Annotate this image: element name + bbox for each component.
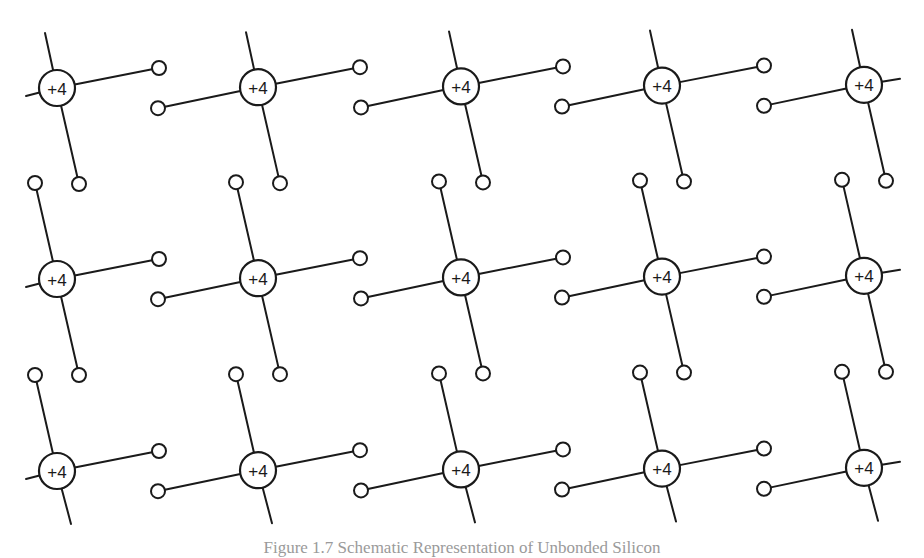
atom-r2c2-left-electron: [151, 292, 165, 306]
atom-r3c2-up-bond: [238, 381, 254, 453]
atom-r1c3-left-bond: [368, 90, 444, 106]
silicon-atom: +4: [240, 69, 276, 105]
atom-r3c5-right-bond: [882, 462, 900, 465]
atom-r2c2-left-bond: [165, 282, 241, 298]
atom-r3c3-right-bond: [479, 451, 556, 466]
atom-charge-label: +4: [451, 461, 470, 480]
atom-r3c2-down-bond: [263, 488, 272, 524]
atom-r2c1-left-bond: [26, 283, 40, 287]
atom-r3c2-left-electron: [151, 484, 165, 498]
atom-r2c3-up-bond: [441, 188, 457, 260]
atom-charge-label: +4: [652, 268, 671, 287]
atom-r3c2-right-bond: [276, 452, 353, 467]
atom-r3c4-right-bond: [680, 450, 757, 465]
silicon-atom: +4: [39, 70, 75, 106]
silicon-atom: +4: [39, 261, 75, 297]
atom-charge-label: +4: [854, 76, 873, 95]
silicon-atom: +4: [644, 451, 680, 487]
atom-r1c3-left-electron: [354, 100, 368, 114]
atom-charge-label: +4: [47, 80, 66, 99]
atom-r1c1-down-electron: [72, 177, 86, 191]
atom-r1c4-right-electron: [757, 59, 771, 73]
silicon-atom: +4: [644, 68, 680, 104]
atom-r3c1-down-bond: [62, 488, 71, 524]
atom-r2c3-right-electron: [556, 250, 570, 264]
silicon-atom: +4: [846, 450, 882, 486]
atom-charge-label: +4: [451, 78, 470, 97]
silicon-atom: +4: [240, 452, 276, 488]
atom-r1c3-down-electron: [476, 175, 490, 189]
atom-r3c5-up-bond: [844, 379, 860, 451]
atom-r3c3-left-bond: [368, 473, 444, 489]
atom-r1c3-right-bond: [479, 68, 556, 83]
atom-r2c1-down-electron: [72, 368, 86, 382]
atom-r2c2-right-bond: [276, 260, 353, 275]
atom-r3c4-right-electron: [757, 442, 771, 456]
atom-r1c3-right-electron: [556, 59, 570, 73]
atom-charge-label: +4: [854, 459, 873, 478]
atom-r3c3-up-electron: [432, 366, 446, 380]
atom-r1c1-up-bond: [45, 33, 53, 70]
atom-r2c1-right-electron: [152, 252, 166, 266]
atom-r2c5-up-bond: [844, 187, 860, 259]
atom-r2c4-down-bond: [666, 294, 682, 366]
silicon-atom: +4: [443, 451, 479, 487]
atom-r3c3-right-electron: [556, 442, 570, 456]
atom-r3c2-left-bond: [165, 474, 241, 490]
atom-r2c4-left-bond: [569, 280, 645, 296]
atom-r3c4-up-bond: [642, 379, 658, 451]
atom-r1c5-up-bond: [852, 30, 860, 67]
atom-r3c4-down-bond: [667, 486, 676, 522]
atom-r1c2-down-electron: [273, 176, 287, 190]
atom-charge-label: +4: [451, 269, 470, 288]
atom-charge-label: +4: [652, 77, 671, 96]
atom-r3c4-left-bond: [569, 472, 645, 488]
atom-r1c4-down-electron: [677, 175, 691, 189]
atom-r2c2-down-bond: [262, 296, 278, 368]
silicon-atom: +4: [443, 259, 479, 295]
atom-r3c1-right-bond: [75, 452, 152, 467]
atom-r1c2-left-electron: [151, 101, 165, 115]
atom-r1c1-left-bond: [26, 92, 40, 96]
atom-r3c3-up-bond: [441, 380, 457, 452]
atom-r2c5-left-electron: [757, 290, 771, 304]
atom-r3c5-down-bond: [869, 485, 878, 521]
atom-r2c4-right-electron: [757, 250, 771, 264]
atom-r3c5-up-electron: [835, 365, 849, 379]
atoms-layer: +4+4+4+4+4+4+4+4+4+4+4+4+4+4+4: [39, 67, 882, 489]
atom-charge-label: +4: [248, 79, 267, 98]
atom-r1c4-right-bond: [680, 67, 757, 82]
atom-r1c2-left-bond: [165, 91, 241, 107]
atom-r2c1-right-bond: [75, 260, 152, 275]
atom-r1c2-up-bond: [246, 32, 254, 69]
atom-r3c1-up-electron: [28, 368, 42, 382]
atom-r2c5-down-bond: [868, 293, 884, 365]
silicon-atom: +4: [846, 258, 882, 294]
atom-r2c3-down-electron: [476, 366, 490, 380]
atom-r1c1-right-bond: [75, 69, 152, 84]
atom-r1c5-down-bond: [868, 102, 884, 174]
atom-r3c1-left-bond: [26, 475, 40, 479]
atom-r1c2-right-electron: [353, 60, 367, 74]
atom-r3c2-up-electron: [229, 367, 243, 381]
atom-r3c1-right-electron: [152, 444, 166, 458]
figure-caption: Figure 1.7 Schematic Representation of U…: [0, 538, 924, 558]
atom-r1c4-left-bond: [569, 89, 645, 105]
atom-r2c1-up-bond: [37, 190, 53, 262]
atom-r2c2-right-electron: [353, 251, 367, 265]
atom-r2c3-right-bond: [479, 259, 556, 274]
atom-r2c1-up-electron: [28, 176, 42, 190]
atom-r2c3-left-bond: [368, 281, 444, 297]
atom-r2c4-up-bond: [642, 187, 658, 259]
silicon-atom: +4: [644, 259, 680, 295]
atom-r1c2-right-bond: [276, 69, 353, 84]
atom-r2c4-right-bond: [680, 258, 757, 273]
atom-r3c3-down-bond: [466, 487, 475, 523]
atom-charge-label: +4: [248, 462, 267, 481]
atom-r1c5-right-bond: [882, 79, 900, 82]
atom-r3c5-left-bond: [771, 471, 847, 487]
atom-r3c4-left-electron: [555, 483, 569, 497]
atom-r1c5-left-electron: [757, 99, 771, 113]
silicon-atom: +4: [443, 68, 479, 104]
